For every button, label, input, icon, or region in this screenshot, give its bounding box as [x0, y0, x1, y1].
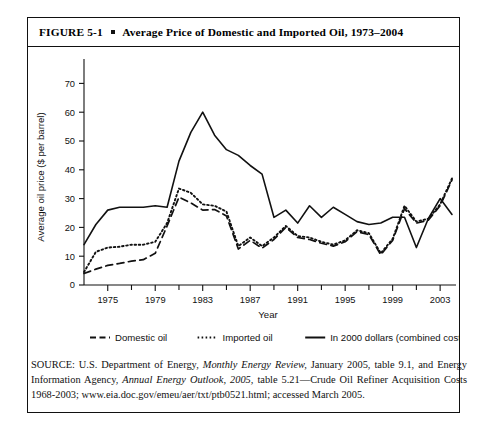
- series-line-1: [84, 178, 452, 272]
- source-italic-2: Annual Energy Outlook, 2005,: [122, 374, 253, 385]
- x-tick-label: 1975: [97, 295, 118, 305]
- legend-label: Domestic oil: [115, 332, 167, 343]
- source-note: SOURCE: U.S. Department of Energy, Month…: [31, 358, 467, 402]
- figure-caption-bar: FIGURE 5-1 Average Price of Domestic and…: [28, 18, 459, 47]
- square-bullet-icon: [111, 30, 115, 34]
- legend-item-2: In 2000 dollars (combined cost): [305, 332, 459, 343]
- figure-number: FIGURE 5-1: [39, 26, 103, 38]
- x-tick-label: 2003: [430, 295, 451, 305]
- page-title: Average Price of Domestic and Imported O…: [122, 26, 403, 38]
- y-tick-label: 30: [65, 194, 75, 204]
- y-tick-label: 10: [65, 252, 75, 262]
- x-tick-label: 1991: [287, 295, 308, 305]
- y-tick-label: 60: [65, 108, 75, 118]
- x-tick-label: 1999: [382, 295, 403, 305]
- y-axis-title: Average oil price ($ per barrel): [35, 112, 46, 241]
- y-tick-label: 70: [65, 79, 75, 89]
- figure-frame: FIGURE 5-1 Average Price of Domestic and…: [27, 17, 460, 413]
- legend-item-1: Imported oil: [198, 332, 273, 343]
- x-axis-title: Year: [258, 309, 278, 320]
- x-tick-label: 1979: [145, 295, 166, 305]
- legend-label: Imported oil: [223, 332, 273, 343]
- figure-caption: FIGURE 5-1 Average Price of Domestic and…: [39, 26, 403, 38]
- x-tick-label: 1995: [335, 295, 356, 305]
- legend-label: In 2000 dollars (combined cost): [330, 332, 459, 343]
- x-tick-label: 1983: [192, 295, 213, 305]
- y-tick-label: 50: [65, 136, 75, 146]
- source-part-1: SOURCE: U.S. Department of Energy,: [31, 359, 203, 370]
- y-tick-label: 40: [65, 165, 75, 175]
- source-italic-1: Monthly Energy Review,: [203, 359, 307, 370]
- y-tick-label: 0: [70, 280, 75, 290]
- x-tick-label: 1987: [240, 295, 261, 305]
- y-tick-label: 20: [65, 223, 75, 233]
- legend-item-0: Domestic oil: [90, 332, 167, 343]
